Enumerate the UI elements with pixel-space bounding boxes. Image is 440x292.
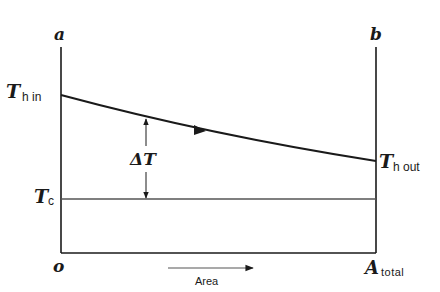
left-axis-label: a [54,24,65,44]
t-hot-out-sub: h out [393,160,420,174]
area-label: Area [195,275,219,287]
a-total-subscript: total [381,266,404,278]
delta-t-label: ΔT [129,149,157,169]
heat-exchanger-temperature-diagram: ΔT a b o A total Area T h in T h out T c [0,0,440,292]
t-hot-in-main: T [6,80,22,102]
right-axis-label: b [370,24,382,44]
t-hot-in-sub: h in [22,90,41,104]
a-total-label: A [363,257,379,278]
hot-fluid-curve [61,95,376,161]
t-cold-sub: c [48,194,54,208]
origin-label: o [53,256,64,276]
